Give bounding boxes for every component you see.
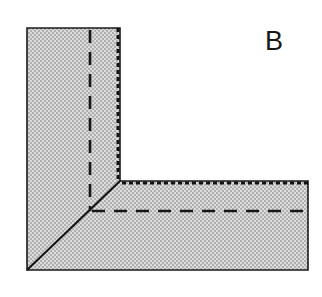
figure-panel: B — [0, 0, 322, 297]
panel-label-b: B — [265, 28, 283, 55]
l-shape-fill — [27, 28, 308, 270]
